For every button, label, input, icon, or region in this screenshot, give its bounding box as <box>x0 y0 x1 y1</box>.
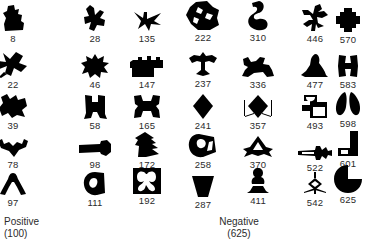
shape-id-label: 222 <box>177 32 229 43</box>
shape-id-label: 287 <box>177 199 229 210</box>
shape-id-label: 411 <box>232 195 284 206</box>
bat-wing-silhouette-shape <box>0 128 39 158</box>
snail-shell-silhouette-shape <box>177 128 229 158</box>
shape-cell: 22 <box>0 48 39 90</box>
blob-cat-silhouette-shape <box>0 89 39 119</box>
shape-cell: 78 <box>0 128 39 170</box>
shape-cell: 570 <box>322 3 368 45</box>
pacman-circle-silhouette-shape <box>322 163 368 193</box>
shape-cell: 625 <box>322 163 368 205</box>
shape-cell: 28 <box>69 2 121 44</box>
rook-silhouette-shape <box>0 2 39 32</box>
shape-cell: 237 <box>177 47 229 89</box>
shape-id-label: 310 <box>232 32 284 43</box>
h-block-silhouette-shape <box>322 48 368 78</box>
shape-id-label: 192 <box>121 195 173 206</box>
chess-pawn-silhouette-shape <box>232 164 284 194</box>
shape-cell: 165 <box>121 89 173 131</box>
butterfly-in-box-silhouette-shape <box>121 164 173 194</box>
bone-key-silhouette-shape <box>69 128 121 158</box>
shape-cell: 147 <box>121 48 173 90</box>
caption-negative-count: (625) <box>204 228 274 240</box>
shape-cell: 598 <box>322 87 368 129</box>
double-teardrop-silhouette-shape <box>322 87 368 117</box>
wishbone-silhouette-shape <box>0 166 39 196</box>
spiral-curl-silhouette-shape <box>69 166 121 196</box>
flying-bird-silhouette-shape <box>121 2 173 32</box>
tent-triangle-silhouette-shape <box>232 128 284 158</box>
shape-cell: 111 <box>69 166 121 208</box>
caption-positive-label: Positive <box>4 216 39 227</box>
arrow-pine-silhouette-shape <box>121 128 173 158</box>
caption-negative: Negative (625) <box>204 216 274 240</box>
stimulus-shape-grid: 8 22 39 78 97 28 46 <box>0 0 368 208</box>
reclining-figure-silhouette-shape <box>232 48 284 78</box>
shape-cell: 310 <box>232 1 284 43</box>
caption-negative-label: Negative <box>219 216 258 227</box>
shape-cell: 222 <box>177 1 229 43</box>
shape-id-label: 28 <box>69 33 121 44</box>
spiky-star-silhouette-shape <box>69 48 121 78</box>
butterfly-x-silhouette-shape <box>0 48 39 78</box>
bird-silhouette-shape <box>69 2 121 32</box>
shape-cell: 357 <box>232 89 284 131</box>
shape-cell: 241 <box>177 89 229 131</box>
l-hook-silhouette-shape <box>322 127 368 157</box>
shape-id-label: 8 <box>0 33 39 44</box>
whiskered-diamond-silhouette-shape <box>232 89 284 119</box>
diamond-silhouette-shape <box>177 89 229 119</box>
shape-cell: 411 <box>232 164 284 206</box>
hourglass-frame-silhouette-shape <box>121 89 173 119</box>
shape-id-label: 625 <box>322 194 368 205</box>
shape-id-label: 570 <box>322 34 368 45</box>
shape-id-label: 237 <box>177 78 229 89</box>
shape-id-label: 135 <box>121 33 173 44</box>
curl-blob-silhouette-shape <box>232 1 284 31</box>
shape-cell: 97 <box>0 166 39 208</box>
shape-cell: 135 <box>121 2 173 44</box>
caption-positive-count: (100) <box>4 228 39 240</box>
shape-cell: 58 <box>69 89 121 131</box>
shape-cell: 8 <box>0 2 39 44</box>
faceted-polygon-silhouette-shape <box>177 1 229 31</box>
shape-cell: 39 <box>0 89 39 131</box>
shape-cell: 192 <box>121 164 173 206</box>
shape-id-label: 97 <box>0 197 39 208</box>
inverted-trapezoid-silhouette-shape <box>177 168 229 198</box>
shape-cell: 336 <box>232 48 284 90</box>
plus-cross-silhouette-shape <box>322 3 368 33</box>
anchor-tree-silhouette-shape <box>177 47 229 77</box>
shape-id-label: 111 <box>69 197 121 208</box>
caption-positive: Positive (100) <box>4 216 39 240</box>
shape-cell: 98 <box>69 128 121 170</box>
shape-cell: 258 <box>177 128 229 170</box>
castle-battlement-silhouette-shape <box>121 48 173 78</box>
bone-spool-silhouette-shape <box>69 89 121 119</box>
shape-cell: 287 <box>177 168 229 210</box>
shape-cell: 46 <box>69 48 121 90</box>
shape-cell: 583 <box>322 48 368 90</box>
